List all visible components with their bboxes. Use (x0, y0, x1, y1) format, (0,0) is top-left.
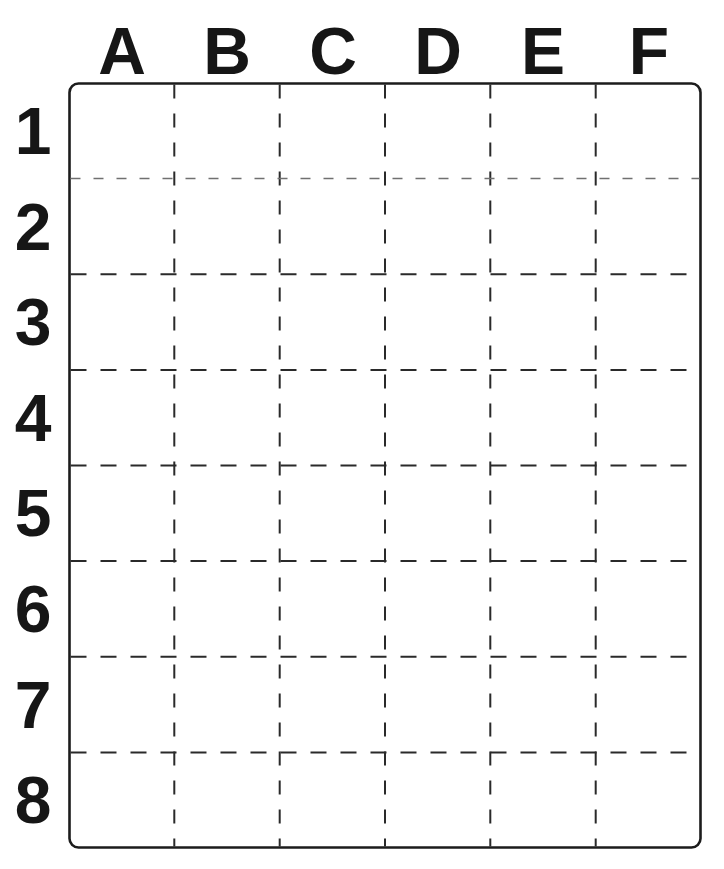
row-label-5: 5 (0, 465, 66, 561)
column-label-f: F (596, 0, 702, 82)
row-label-3: 3 (0, 274, 66, 370)
row-label-6: 6 (0, 561, 66, 657)
coordinate-grid (0, 0, 724, 869)
column-label-b: B (174, 0, 280, 82)
row-label-8: 8 (0, 752, 66, 848)
column-label-e: E (490, 0, 596, 82)
column-label-c: C (280, 0, 386, 82)
row-label-1: 1 (0, 83, 66, 179)
worksheet-page: A B C D E F 1 2 3 4 5 6 7 8 (0, 0, 724, 869)
row-label-2: 2 (0, 179, 66, 275)
column-label-a: A (69, 0, 175, 82)
row-label-7: 7 (0, 657, 66, 753)
column-label-d: D (385, 0, 491, 82)
row-label-4: 4 (0, 370, 66, 466)
